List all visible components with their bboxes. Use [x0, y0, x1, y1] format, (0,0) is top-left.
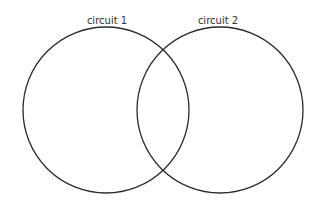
circuit-1-circle: [23, 27, 189, 193]
circuit-2-label: circuit 2: [198, 15, 238, 26]
circuit-2-circle: [137, 27, 303, 193]
venn-diagram: circuit 1 circuit 2: [0, 0, 314, 206]
circuit-1-label: circuit 1: [87, 15, 127, 26]
